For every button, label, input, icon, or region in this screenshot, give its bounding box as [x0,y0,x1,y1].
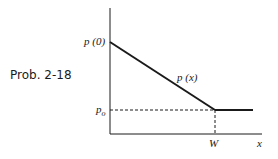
w-label: W [209,138,218,149]
px-curve-sloped [110,42,215,110]
x-axis-label-text: x [257,137,262,149]
po-label: po [96,104,106,118]
x-axis-label: x [257,138,262,149]
px-label-text: p (x) [177,71,197,83]
diagram-figure: Prob. 2-18 p (0) p (x) po W x [0,0,278,159]
w-label-text: W [209,137,218,149]
p0-label-text: p (0) [84,35,105,47]
px-label: p (x) [177,72,197,83]
p0-label: p (0) [84,36,105,47]
problem-caption: Prob. 2-18 [10,69,72,81]
po-label-sub: o [102,109,106,118]
